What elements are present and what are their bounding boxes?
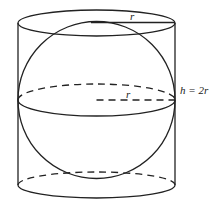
cylinder-bottom-front (18, 185, 175, 198)
height-label: h = 2r (180, 84, 209, 96)
top-radius-label: r (130, 10, 135, 22)
equator-radius-label: r (126, 88, 131, 100)
sphere-equator-back-dashed (18, 84, 175, 100)
sphere-equator-front (18, 100, 175, 116)
sphere-in-cylinder-diagram: r r h = 2r (0, 0, 222, 205)
